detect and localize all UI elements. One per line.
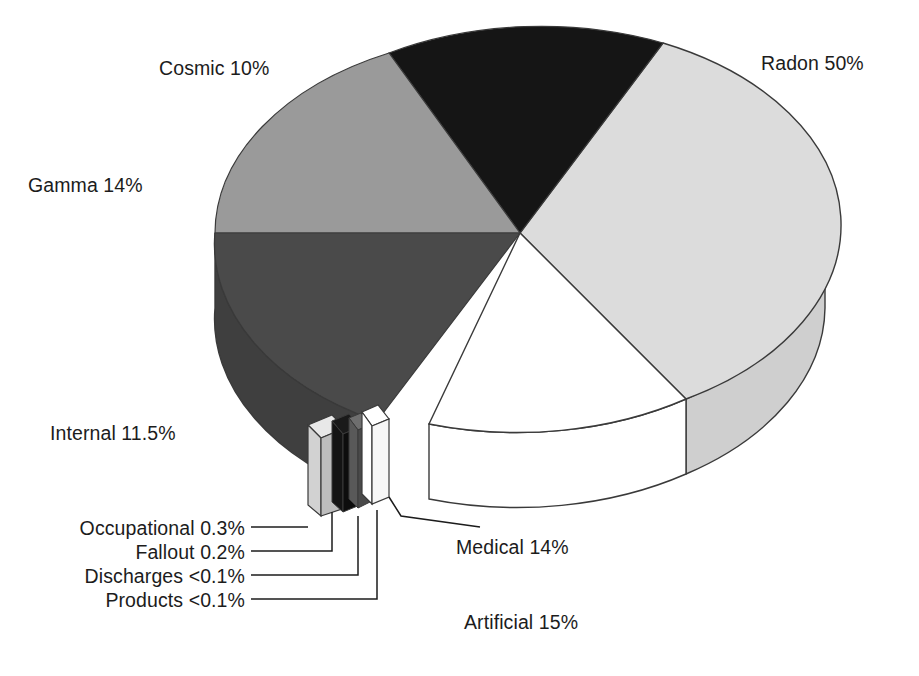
exploded-thin-slices — [308, 405, 389, 516]
slice-side-products-edge — [372, 419, 389, 504]
leader-line-fallout — [251, 512, 332, 551]
slice-side-products — [362, 412, 372, 504]
label-artificial: Artificial 15% — [464, 611, 578, 634]
label-gamma: Gamma 14% — [28, 174, 143, 197]
label-products: Products <0.1% — [0, 589, 245, 612]
slice-side-discharges — [349, 418, 358, 508]
label-fallout: Fallout 0.2% — [0, 541, 245, 564]
label-cosmic: Cosmic 10% — [159, 57, 269, 80]
pie-chart-figure: Radon 50% Cosmic 10% Gamma 14% Internal … — [0, 0, 919, 676]
label-internal: Internal 11.5% — [50, 422, 176, 445]
slice-products — [362, 405, 389, 504]
label-discharges: Discharges <0.1% — [0, 565, 245, 588]
label-radon: Radon 50% — [761, 52, 864, 75]
label-medical: Medical 14% — [456, 536, 569, 559]
slice-side-fallout — [332, 421, 343, 512]
leader-line-discharges — [251, 516, 358, 575]
slice-side-occupational — [308, 425, 321, 516]
label-occupational: Occupational 0.3% — [0, 517, 245, 540]
leader-lines — [251, 497, 480, 599]
